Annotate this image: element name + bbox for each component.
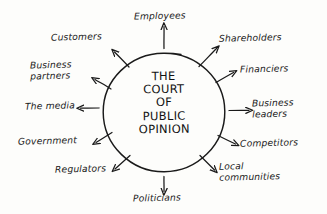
arrow-business-partners bbox=[95, 80, 111, 90]
stakeholder-label-competitors: Competitors bbox=[240, 137, 298, 149]
stakeholder-label-local-communities: Local communities bbox=[219, 160, 281, 182]
center-label: THE COURT OF PUBLIC OPINION bbox=[122, 69, 207, 136]
stakeholder-label-financiers: Financiers bbox=[240, 63, 289, 75]
stakeholder-label-politicians: Politicians bbox=[133, 192, 181, 204]
stakeholder-label-employees: Employees bbox=[134, 10, 186, 22]
arrow-shareholders bbox=[199, 49, 217, 67]
stakeholder-label-regulators: Regulators bbox=[55, 163, 106, 175]
stakeholder-label-government: Government bbox=[18, 135, 77, 147]
stakeholder-label-business-partners: Business partners bbox=[30, 59, 72, 81]
arrow-financiers bbox=[216, 73, 234, 83]
arrow-regulators bbox=[115, 156, 130, 170]
center-line-5: OPINION bbox=[122, 122, 206, 136]
arrow-competitors bbox=[218, 136, 236, 145]
stakeholder-label-business-leaders: Business leaders bbox=[252, 97, 294, 119]
stakeholder-label-the-media: The media bbox=[25, 100, 75, 112]
stakeholder-label-shareholders: Shareholders bbox=[219, 32, 282, 44]
arrow-local-communities bbox=[200, 156, 215, 171]
stakeholder-label-customers: Customers bbox=[51, 31, 102, 43]
arrow-customers bbox=[115, 52, 130, 67]
diagram-canvas: THE COURT OF PUBLIC OPINION Employees Sh… bbox=[0, 0, 327, 214]
